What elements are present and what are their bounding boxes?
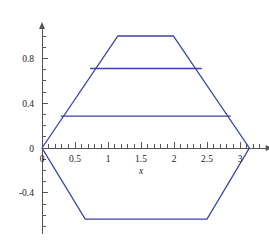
x-axis-major-ticks: [42, 142, 240, 148]
x-tick-label: 1: [106, 154, 111, 164]
x-tick-label: 0.5: [69, 154, 81, 164]
x-tick-label: 2.5: [201, 154, 213, 164]
x-tick-label: 1.5: [135, 154, 147, 164]
x-tick-label: 3: [238, 154, 243, 164]
y-tick-label: 0.4: [22, 99, 34, 109]
y-tick-label: 0.8: [22, 54, 34, 64]
y-tick-label: 0: [29, 144, 34, 154]
x-tick-label: 0: [40, 154, 45, 164]
y-tick-label: -0.4: [19, 188, 34, 198]
data-series-group: [42, 36, 249, 219]
plot-container: 00.511.522.53 0.80.40-0.4 x: [0, 0, 269, 249]
axes-group: [39, 22, 269, 234]
x-tick-label: 2: [172, 154, 177, 164]
x-axis-title: x: [138, 166, 144, 176]
y-axis-arrowhead: [39, 22, 45, 29]
hexagon-outline: [42, 36, 249, 219]
plot-canvas: 00.511.522.53 0.80.40-0.4 x: [0, 0, 269, 249]
x-axis-arrowhead: [266, 145, 269, 151]
y-axis-minor-ticks: [42, 36, 46, 226]
x-axis-tick-labels: 00.511.522.53: [40, 154, 243, 164]
y-axis-tick-labels: 0.80.40-0.4: [19, 54, 34, 198]
